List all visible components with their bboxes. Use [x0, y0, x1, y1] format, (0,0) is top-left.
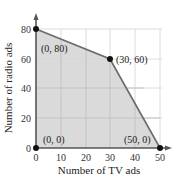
- chart-svg: (0, 80) (30, 60) (0, 0) (50, 0) 0 10 20 …: [0, 0, 175, 185]
- x-axis-title: Number of TV ads: [58, 164, 140, 176]
- x-tick: 40: [130, 152, 140, 163]
- vertex-point: [33, 26, 39, 32]
- vertex-label: (0, 0): [43, 134, 65, 146]
- x-tick: 10: [56, 152, 66, 163]
- x-tick-labels: 0 10 20 30 40 50: [34, 152, 166, 163]
- vertex-label: (30, 60): [116, 54, 148, 66]
- y-tick: 60: [21, 54, 31, 65]
- vertex-point: [33, 145, 39, 151]
- vertex-label: (50, 0): [124, 134, 151, 146]
- x-tick: 50: [155, 152, 165, 163]
- x-tick: 0: [34, 152, 39, 163]
- vertex-point: [107, 56, 113, 62]
- y-tick: 0: [26, 143, 31, 154]
- y-tick: 40: [21, 83, 31, 94]
- y-tick: 20: [21, 113, 31, 124]
- y-axis-title: Number of radio ads: [2, 43, 14, 134]
- y-tick: 80: [21, 24, 31, 35]
- vertex-label: (0, 80): [41, 43, 68, 55]
- vertex-point: [157, 145, 163, 151]
- y-tick-labels: 0 20 40 60 80: [21, 24, 31, 154]
- x-tick: 30: [105, 152, 115, 163]
- x-tick: 20: [81, 152, 91, 163]
